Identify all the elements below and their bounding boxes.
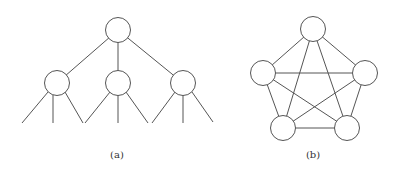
leaf-edge <box>65 92 83 123</box>
edge <box>283 29 313 128</box>
leaf-edge <box>126 92 148 123</box>
node-bottom-right <box>335 116 360 141</box>
node-root <box>106 18 131 43</box>
node-left <box>251 61 276 86</box>
leaf-edge <box>192 92 213 122</box>
leaf-edge <box>22 92 48 123</box>
node-right <box>353 61 378 86</box>
node-child-left <box>45 71 70 96</box>
node-child-right <box>171 71 196 96</box>
node-top <box>301 17 326 42</box>
tree-diagram <box>22 18 213 124</box>
complete-graph-diagram <box>251 17 378 141</box>
caption-a: (a) <box>110 149 124 160</box>
node-child-middle <box>106 71 131 96</box>
diagram-svg: (a) (b) <box>0 0 394 172</box>
node-bottom-left <box>271 116 296 141</box>
leaf-edge <box>152 92 175 123</box>
leaf-edge <box>85 92 110 123</box>
caption-b: (b) <box>306 149 320 160</box>
figure-canvas: (a) (b) <box>0 0 394 172</box>
